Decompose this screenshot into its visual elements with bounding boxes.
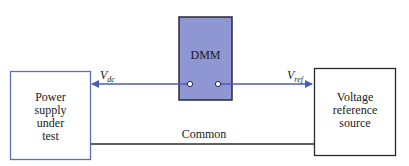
power-supply-line-1: Power [35, 90, 66, 104]
vref-label: Vref [287, 68, 305, 84]
vdc-label: Vdc [100, 68, 115, 84]
dmm-block: DMM [179, 17, 232, 100]
dmm-terminal-left [187, 81, 192, 86]
dmm-label: DMM [190, 48, 220, 62]
voltage-reference-line-2: reference [333, 103, 378, 117]
vref-subscript: ref [294, 75, 304, 84]
voltage-reference-line-1: Voltage [337, 90, 373, 104]
dmm-terminal-right [215, 81, 220, 86]
voltage-reference-block: Voltage reference source [315, 69, 396, 156]
dmm-calibration-diagram: DMM Vdc Vref Power supply under test Vol… [0, 0, 409, 166]
common-label: Common [182, 127, 227, 141]
vdc-subscript: dc [107, 75, 115, 84]
power-supply-line-4: test [42, 129, 59, 143]
power-supply-line-3: under [37, 116, 64, 130]
power-supply-block: Power supply under test [11, 72, 91, 160]
power-supply-line-2: supply [34, 103, 66, 117]
voltage-reference-line-3: source [339, 116, 370, 130]
